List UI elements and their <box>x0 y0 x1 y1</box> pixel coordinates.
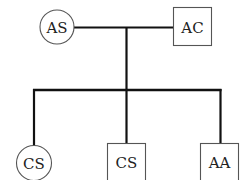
node-label: AC <box>180 19 203 37</box>
node-label: AS <box>45 19 67 37</box>
node-as: AS <box>40 10 74 44</box>
node-label: CS <box>23 155 45 173</box>
node-cs-female: CS <box>17 146 52 181</box>
node-aa: AA <box>201 144 239 181</box>
node-label: CS <box>116 154 138 172</box>
pedigree-diagram: AS AC CS CS AA <box>0 0 241 180</box>
node-label: AA <box>208 154 231 172</box>
node-cs-male: CS <box>108 144 146 181</box>
node-ac: AC <box>174 8 212 46</box>
